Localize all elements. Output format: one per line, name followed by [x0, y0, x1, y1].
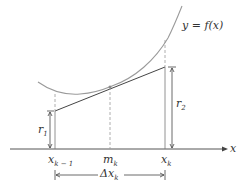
r1-label: r1: [38, 124, 48, 138]
tick-label-xk: xk: [161, 154, 171, 168]
midpoint-tangent-diagram: y = f(x) x xk − 1 mk xk r1 r2 Δxk: [0, 0, 248, 193]
curve-f: [38, 6, 182, 94]
tick-label-xk-1: xk − 1: [48, 154, 73, 168]
curve-label: y = f(x): [182, 20, 223, 31]
delta-xk-label: Δxk: [100, 168, 118, 182]
r1-dimension: [47, 111, 54, 148]
r2-label: r2: [176, 98, 186, 112]
tick-label-mk: mk: [103, 154, 118, 168]
x-axis-arrowhead: [222, 147, 228, 152]
r2-dimension: [168, 67, 176, 148]
axis-label-x: x: [230, 143, 236, 154]
